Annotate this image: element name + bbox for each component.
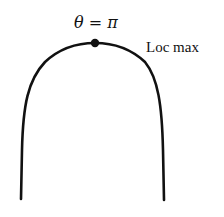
loc-max-annotation: Loc max — [146, 39, 199, 56]
local-max-point — [91, 39, 99, 47]
point-label: θ = π — [74, 13, 118, 32]
diagram-canvas: θ = π Loc max — [0, 0, 224, 217]
curve-svg — [0, 0, 224, 217]
inverted-u-curve — [21, 43, 164, 200]
